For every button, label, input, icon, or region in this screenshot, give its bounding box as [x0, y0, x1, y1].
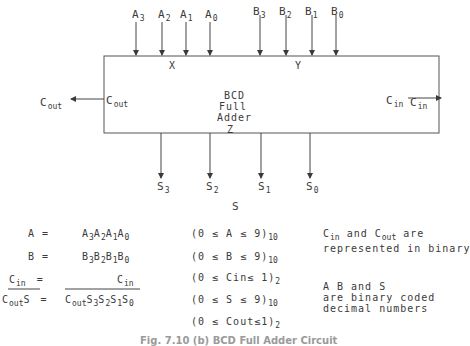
output-s0-label: S0 — [306, 180, 318, 195]
note-bcd-line3: decimal numbers — [323, 303, 428, 314]
range-b: (0 ≤ B ≤ 9)10 — [191, 251, 278, 265]
input-a3-label: A3 — [132, 8, 144, 23]
note-bcd-line2: are binary coded — [323, 292, 435, 303]
external-cout-label: Cout — [40, 96, 62, 111]
port-x-label: X — [169, 60, 176, 71]
block-title-line2: Full — [219, 101, 247, 112]
output-s3-label: S3 — [157, 180, 169, 195]
range-s: (0 ≤ S ≤ 9)10 — [191, 294, 278, 308]
port-cout-label: Cout — [106, 94, 128, 109]
input-a1-label: A1 — [180, 8, 192, 23]
eq-b-rhs: B3B2B1B0 — [82, 251, 129, 265]
input-b1-label: B1 — [305, 5, 317, 20]
input-b0-label: B0 — [331, 5, 343, 20]
eq-cs-rhs: CoutS3S2S1S0 — [65, 294, 134, 308]
port-z-label: Z — [227, 124, 234, 135]
eq-cin-rhs: Cin — [117, 274, 134, 288]
external-cin-label: Cin — [410, 96, 427, 111]
note-bcd-line1: A B and S — [323, 281, 386, 292]
eq-b-lhs: B = — [28, 251, 49, 262]
note-carry-line1: Cin and Cout are — [323, 228, 424, 242]
input-b3-label: B3 — [253, 5, 265, 20]
output-s1-label: S1 — [258, 180, 270, 195]
eq-a-lhs: A = — [28, 228, 49, 239]
output-s2-label: S2 — [206, 180, 218, 195]
eq-a-rhs: A3A2A1A0 — [82, 228, 129, 242]
input-b2-label: B2 — [279, 5, 291, 20]
range-cin: (0 ≤ Cin≤ 1)2 — [191, 272, 280, 286]
block-title-line3: Adder — [217, 112, 252, 123]
port-y-label: Y — [295, 60, 302, 71]
input-a0-label: A0 — [205, 8, 217, 23]
input-a2-label: A2 — [158, 8, 170, 23]
eq-cs-lhs: CoutS = — [2, 294, 48, 308]
port-cin-label: Cin — [386, 94, 403, 109]
note-carry-line2: represented in binary — [323, 243, 470, 254]
figure-caption: Fig. 7.10 (b) BCD Full Adder Circuit — [140, 335, 337, 346]
eq-cin-lhs: Cin = — [9, 274, 44, 288]
range-cout: (0 ≤ Cout≤1)2 — [191, 316, 280, 330]
block-title-line1: BCD — [224, 90, 245, 101]
output-s-label: S — [232, 200, 240, 213]
range-a: (0 ≤ A ≤ 9)10 — [191, 228, 278, 242]
